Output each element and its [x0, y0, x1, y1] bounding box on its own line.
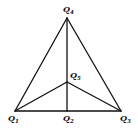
label-q2: Q2 [63, 113, 74, 124]
edges [15, 18, 121, 111]
label-q1: Q1 [8, 113, 19, 124]
triangle-diagram: Q1Q2Q3Q4Q5 [0, 0, 138, 128]
label-q5: Q5 [70, 70, 81, 81]
label-q4: Q4 [63, 4, 74, 15]
label-q3: Q3 [120, 113, 131, 124]
